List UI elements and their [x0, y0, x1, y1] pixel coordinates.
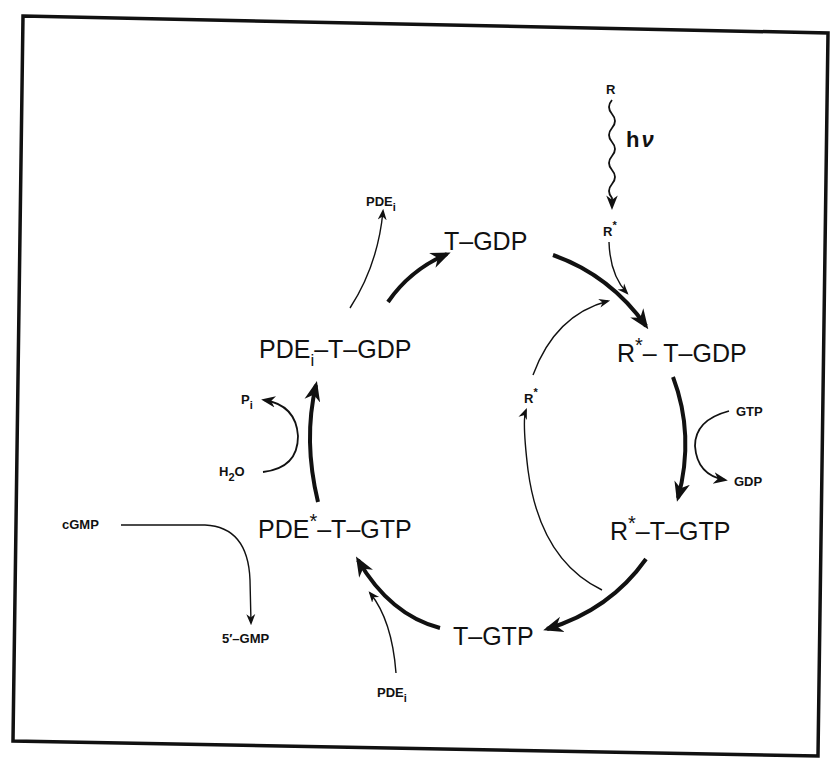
arrow-r-star-tgtp-to-tgtp	[547, 559, 646, 629]
arrow-r-star-to-complex	[609, 242, 627, 293]
label-gdp: GDP	[734, 474, 763, 489]
label-p-i: Pi	[241, 392, 253, 411]
node-t-gtp: T–GTP	[453, 622, 534, 650]
label-pdei-bottom: PDEi	[377, 685, 407, 704]
node-t-gdp: T–GDP	[444, 227, 527, 255]
label-r-star-recycle: R*	[524, 386, 538, 406]
label-5-gmp: 5′–GMP	[222, 631, 270, 646]
node-r-star-t-gdp: R*– T–GDP	[617, 334, 747, 367]
arrow-pde-star-tgtp-to-pdei-tgdp	[310, 385, 318, 502]
arrow-r-star-recycle-lower	[524, 410, 602, 590]
arrow-cgmp-to-5gmp	[121, 525, 251, 623]
figure-frame	[13, 16, 828, 756]
arrow-r-star-recycle-upper	[533, 301, 608, 375]
wavy-arrow-light	[609, 100, 615, 207]
label-r-star-top: R*	[603, 219, 617, 239]
arrow-pdei-release	[350, 211, 383, 308]
arrow-pdei-tgdp-to-tgdp	[388, 254, 447, 302]
node-pde-star-t-gtp: PDE*–T–GTP	[258, 510, 412, 543]
label-gtp: GTP	[736, 404, 763, 419]
arrow-tgdp-to-r-star-tgdp	[553, 255, 646, 326]
arrow-r-star-tgdp-to-r-star-tgtp	[673, 377, 685, 498]
label-r: R	[606, 82, 616, 97]
label-pdei-top: PDEi	[366, 194, 396, 213]
arrow-gtp-to-gdp	[695, 411, 729, 480]
node-r-star-t-gtp: R*–T–GTP	[610, 512, 730, 545]
label-h2o: H2O	[219, 464, 245, 483]
label-h-nu: hν	[626, 127, 654, 152]
arrow-h2o-to-pi	[263, 400, 298, 472]
label-cgmp: cGMP	[62, 517, 99, 532]
node-pde-i-t-gdp: PDEi–T–GDP	[259, 335, 411, 370]
transducin-cycle-diagram: T–GDP R*– T–GDP R*–T–GTP T–GTP PDE*–T–GT…	[0, 0, 835, 767]
